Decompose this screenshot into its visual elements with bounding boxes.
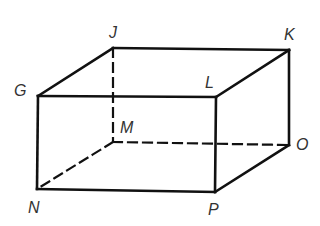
vertex-label-O: O — [296, 136, 308, 153]
vertex-label-M: M — [120, 119, 134, 136]
vertex-label-J: J — [108, 24, 118, 41]
edge-LP — [215, 97, 216, 192]
edge-PO — [215, 145, 289, 192]
edge-JK — [113, 48, 289, 50]
prism-diagram: GJKLMNOP — [0, 0, 320, 226]
vertex-label-N: N — [28, 199, 40, 216]
edge-LK — [216, 50, 289, 97]
vertex-label-K: K — [284, 26, 296, 43]
edge-GN — [37, 96, 38, 189]
hidden-edge-MO — [113, 142, 289, 145]
vertex-label-G: G — [14, 82, 26, 99]
edge-GJ — [38, 48, 113, 96]
edge-GL — [38, 96, 216, 97]
vertex-label-P: P — [208, 201, 219, 218]
edges — [37, 48, 289, 192]
vertex-label-L: L — [205, 74, 214, 91]
hidden-edge-MN — [37, 142, 113, 189]
edge-NP — [37, 189, 215, 192]
